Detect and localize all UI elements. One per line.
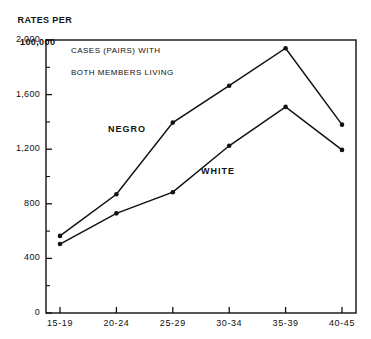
data-point [340,122,345,127]
x-tick-label: 40-45 [314,318,370,328]
data-point [171,190,176,195]
data-point [58,242,63,247]
data-point [171,120,176,125]
y-tick-label: 2,000 [0,34,40,44]
chart-figure: RATES PER 100,000 CASES (PAIRS) WITH BOT… [0,0,371,339]
plot-area [0,0,371,339]
data-point [227,83,232,88]
y-tick-label: 1,600 [0,89,40,99]
x-tick-label: 30-34 [201,318,257,328]
x-tick-label: 25-29 [145,318,201,328]
x-tick-label: 35-39 [258,318,314,328]
series-label-white: WHITE [201,166,235,176]
series-lines [60,48,342,244]
y-tick-label: 400 [0,252,40,262]
data-point [114,192,119,197]
data-point [283,105,288,110]
series-line-negro [60,48,342,236]
y-tick-label: 800 [0,198,40,208]
data-point [340,148,345,153]
series-label-negro: NEGRO [108,124,146,134]
series-points [58,46,345,246]
y-tick-label: 1,200 [0,143,40,153]
x-axis-ticks [60,307,342,313]
data-point [114,211,119,216]
y-tick-label: 0 [0,307,40,317]
data-point [58,234,63,239]
x-tick-label: 20-24 [88,318,144,328]
data-point [283,46,288,51]
x-tick-label: 15-19 [32,318,88,328]
y-axis-ticks [46,40,52,313]
data-point [227,143,232,148]
